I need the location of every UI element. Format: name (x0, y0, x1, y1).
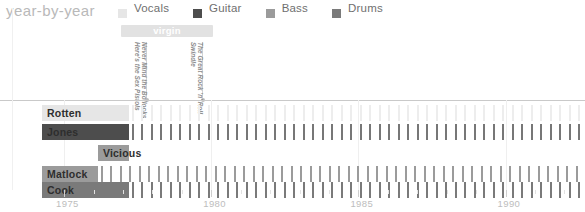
tick-mark (578, 105, 580, 121)
tick-mark (531, 124, 533, 140)
tick-mark (360, 105, 362, 121)
tick-mark (160, 105, 162, 121)
tick-mark (367, 166, 369, 182)
tick-mark (376, 166, 378, 182)
tick-mark (426, 105, 428, 121)
tick-mark (405, 166, 407, 182)
tick-mark (331, 124, 333, 140)
tick-mark (160, 124, 162, 140)
tick-mark (189, 105, 191, 121)
chart-row-jones: Jones (0, 124, 585, 140)
tick-mark (379, 124, 381, 140)
tick-mark (348, 166, 350, 182)
tick-mark (519, 166, 521, 182)
tick-mark (129, 166, 131, 182)
tick-mark (398, 124, 400, 140)
tick-mark (559, 124, 561, 140)
tick-mark (521, 105, 523, 121)
tick-mark (388, 105, 390, 121)
tick-mark (388, 124, 390, 140)
tick-mark (272, 166, 274, 182)
tick-mark (189, 124, 191, 140)
axis-tick-minor (476, 190, 477, 194)
legend-label: Guitar (209, 3, 242, 14)
tick-mark (170, 105, 172, 121)
axis-tick-minor (270, 190, 271, 194)
tick-mark (512, 105, 514, 121)
tick-mark (196, 166, 198, 182)
plot-left-rule (12, 8, 13, 190)
tick-mark (177, 166, 179, 182)
chart-row-rotten: Rotten (0, 105, 585, 121)
tick-mark (483, 124, 485, 140)
tick-mark (312, 124, 314, 140)
axis-tick-minor (447, 190, 448, 194)
member-name-label: Vicious (98, 145, 142, 161)
legend-item-vocals: Vocals (118, 3, 169, 21)
tick-mark (509, 166, 511, 182)
legend-item-drums: Drums (332, 3, 383, 21)
tick-mark (300, 166, 302, 182)
tick-mark (253, 166, 255, 182)
tick-mark (338, 166, 340, 182)
tick-mark (474, 124, 476, 140)
tick-mark (215, 166, 217, 182)
tick-mark (357, 166, 359, 182)
tick-mark (417, 105, 419, 121)
tick-mark (557, 166, 559, 182)
tick-mark (512, 124, 514, 140)
tick-mark (538, 166, 540, 182)
tick-mark (578, 124, 580, 140)
axis-tick-minor (152, 190, 153, 194)
tick-mark (455, 105, 457, 121)
square-swatch-icon (118, 9, 127, 18)
tick-mark (303, 124, 305, 140)
axis-tick-major (211, 190, 212, 197)
tick-mark (281, 166, 283, 182)
tick-mark (179, 124, 181, 140)
tick-mark (274, 105, 276, 121)
tick-mark (284, 105, 286, 121)
page-title: year-by-year (6, 2, 95, 19)
tick-mark (274, 124, 276, 140)
tick-mark (481, 166, 483, 182)
tick-mark (360, 124, 362, 140)
tick-mark (198, 105, 200, 121)
tick-mark (208, 105, 210, 121)
tick-mark (528, 166, 530, 182)
label-band-virgin: virgin (121, 25, 212, 37)
tick-mark (493, 124, 495, 140)
tick-mark (303, 105, 305, 121)
tick-mark (236, 124, 238, 140)
tick-mark (110, 166, 112, 182)
tick-mark (262, 166, 264, 182)
tick-mark (179, 105, 181, 121)
tick-mark (452, 166, 454, 182)
tick-mark (550, 124, 552, 140)
tick-mark (559, 105, 561, 121)
tick-mark (490, 166, 492, 182)
tick-mark (246, 105, 248, 121)
tick-mark (369, 124, 371, 140)
legend-label: Vocals (134, 3, 169, 14)
tick-mark (167, 166, 169, 182)
tick-mark (350, 105, 352, 121)
tick-mark (151, 124, 153, 140)
axis-label: 1985 (350, 198, 373, 209)
tick-mark (386, 166, 388, 182)
tick-mark (198, 124, 200, 140)
tick-mark (148, 166, 150, 182)
tick-mark (547, 166, 549, 182)
tick-mark (369, 105, 371, 121)
tick-mark (217, 105, 219, 121)
axis-tick-major (64, 190, 65, 197)
x-axis: 1975198019851990 (0, 190, 585, 212)
square-swatch-icon (193, 9, 202, 18)
member-name-label: Rotten (42, 105, 81, 121)
axis-tick-minor (182, 190, 183, 194)
tick-mark (312, 105, 314, 121)
tick-mark (424, 166, 426, 182)
tick-mark (540, 105, 542, 121)
tick-mark (234, 166, 236, 182)
tick-mark (139, 166, 141, 182)
